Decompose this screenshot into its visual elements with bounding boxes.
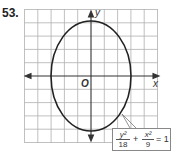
axes xyxy=(25,11,159,141)
equals-one: = 1 xyxy=(156,134,169,144)
y-axis-label: y xyxy=(95,7,100,18)
equation-label: y² 18 + x² 9 = 1 xyxy=(112,128,171,151)
plus-sign: + xyxy=(133,134,138,144)
fraction-y: y² 18 xyxy=(116,130,130,149)
origin-label: O xyxy=(81,78,89,89)
fraction-x: x² 9 xyxy=(142,130,154,149)
x-axis-label: x xyxy=(153,78,158,89)
